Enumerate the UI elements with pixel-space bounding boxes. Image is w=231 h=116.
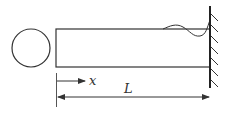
cross-section-circle [12,29,50,67]
length-label: L [123,81,133,96]
wall-hatching [211,14,218,87]
cantilever-diagram: x L [0,0,231,116]
deflection-curve [163,20,210,36]
beam-rectangle [56,29,210,67]
x-label: x [89,73,97,88]
